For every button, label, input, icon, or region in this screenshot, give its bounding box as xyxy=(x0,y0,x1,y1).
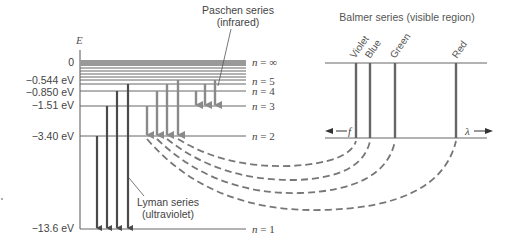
quantum-number-labels: n = ∞ n = 5 n = 4 n = 3 n = 2 n = 1 xyxy=(252,56,277,235)
label-red: Red xyxy=(450,39,470,60)
energy-label-0: 0 xyxy=(68,56,74,68)
frequency-indicator: f xyxy=(325,125,353,137)
lyman-region-label: (ultraviolet) xyxy=(142,208,194,220)
continuum-band xyxy=(80,60,246,66)
frequency-arrow-icon xyxy=(325,128,333,134)
n-label-3: n = 3 xyxy=(252,100,275,112)
energy-axis-label: E xyxy=(75,34,83,46)
connector-blue xyxy=(167,139,370,180)
lyman-pointer xyxy=(129,178,144,196)
energy-label-n5: −0.544 eV xyxy=(26,74,74,86)
energy-level-diagram: E 0 −0.544 eV −0.850 eV −1.51 eV −3.40 e… xyxy=(0,0,514,250)
n-label-1: n = 1 xyxy=(252,223,275,235)
n-label-4: n = 4 xyxy=(252,85,275,97)
spectral-line-labels: Violet Blue Green Red xyxy=(348,31,470,60)
spectral-lines xyxy=(356,63,456,138)
energy-label-n4: −0.850 eV xyxy=(26,86,74,98)
n-label-2: n = 2 xyxy=(252,130,275,142)
n-label-inf: n = ∞ xyxy=(252,56,277,68)
energy-label-n2: −3.40 eV xyxy=(32,130,74,142)
energy-label-n1: −13.6 eV xyxy=(32,222,74,234)
energy-label-n3: −1.51 eV xyxy=(32,99,74,111)
stray-mark xyxy=(1,198,3,200)
label-green: Green xyxy=(388,31,413,60)
balmer-arrows xyxy=(147,80,178,135)
wavelength-arrow-icon xyxy=(485,128,493,134)
wavelength-indicator: λ xyxy=(464,125,493,137)
balmer-panel-title: Balmer series (visible region) xyxy=(339,11,474,23)
lyman-series-label: Lyman series xyxy=(137,196,199,208)
paschen-region-label: (infrared) xyxy=(217,16,260,28)
energy-labels: 0 −0.544 eV −0.850 eV −1.51 eV −3.40 eV … xyxy=(26,56,74,234)
frequency-label: f xyxy=(348,125,353,137)
paschen-series-label: Paschen series xyxy=(202,4,274,16)
wavelength-label: λ xyxy=(464,125,470,137)
